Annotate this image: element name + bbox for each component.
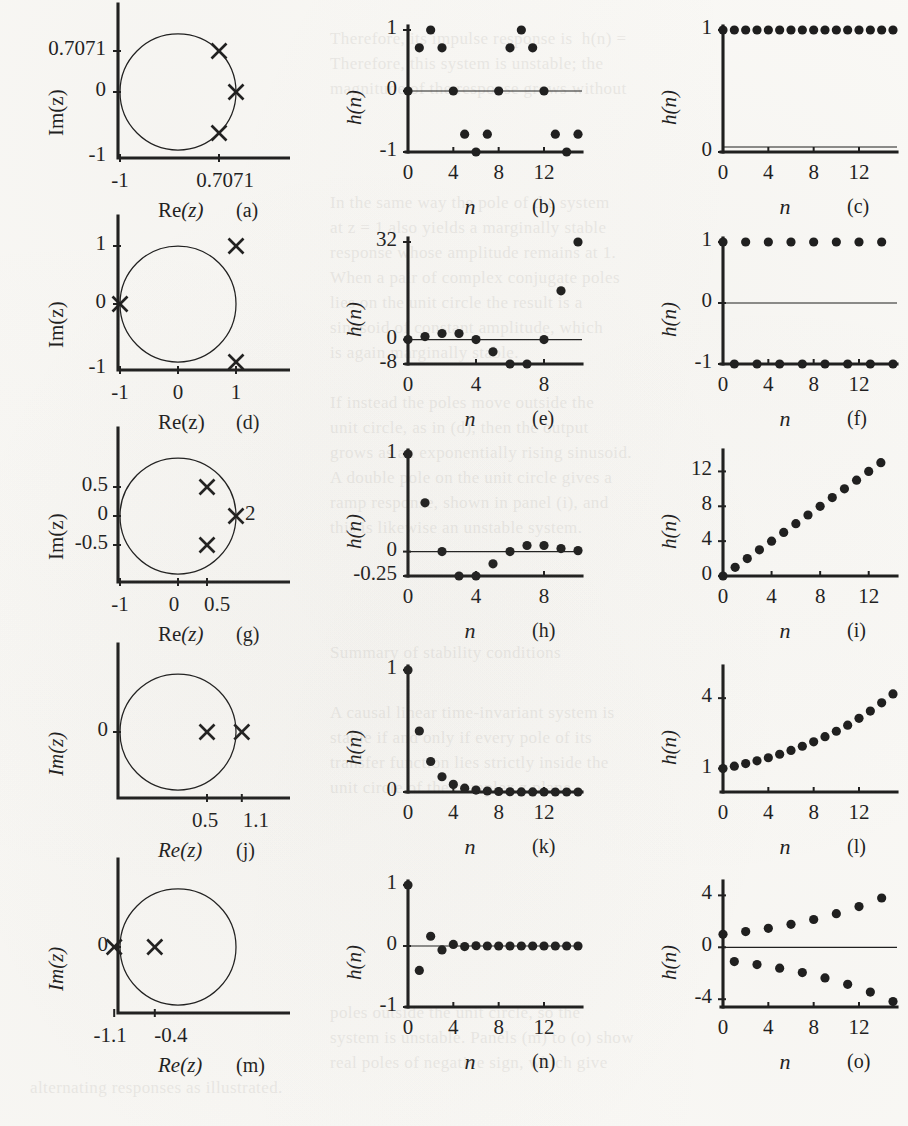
figure-panel-o: 40-404812h(n)n(o) bbox=[615, 855, 905, 1067]
x-axis-label: n bbox=[465, 1049, 476, 1075]
data-point bbox=[471, 785, 480, 794]
pole-marker bbox=[147, 940, 162, 955]
x-tick-label: 12 bbox=[534, 800, 555, 825]
figure-panel-g: 0.50-0.5-100.52Im(z)Re(z)(g) bbox=[0, 424, 290, 636]
x-tick-label: 8 bbox=[493, 1015, 504, 1040]
y-axis-label: h(n) bbox=[342, 945, 367, 980]
data-point bbox=[730, 762, 739, 771]
x-tick-label: 0.7071 bbox=[196, 168, 254, 193]
data-point bbox=[741, 25, 750, 34]
data-point bbox=[786, 25, 795, 34]
x-tick-label: 0 bbox=[403, 1015, 414, 1040]
data-point bbox=[888, 689, 897, 698]
data-point bbox=[505, 359, 514, 368]
data-point bbox=[866, 706, 875, 715]
figure-panel-n: 10-104812h(n)n(n) bbox=[300, 855, 590, 1067]
data-point bbox=[556, 544, 565, 553]
x-tick-label: 8 bbox=[808, 372, 819, 397]
x-tick-label: 4 bbox=[448, 800, 459, 825]
x-tick-label: 12 bbox=[849, 160, 870, 185]
data-point bbox=[505, 43, 514, 52]
y-axis-label: Im(z) bbox=[44, 947, 69, 991]
x-tick-label: -1 bbox=[111, 592, 129, 617]
data-point bbox=[828, 493, 837, 502]
figure-panel-f: 10-104812h(n)n(f) bbox=[615, 212, 905, 424]
y-tick-label: -8 bbox=[380, 349, 398, 374]
data-point bbox=[843, 25, 852, 34]
y-axis-label: Im(z) bbox=[44, 301, 69, 348]
y-tick-label: 32 bbox=[376, 227, 397, 252]
y-axis-label: h(n) bbox=[657, 730, 682, 765]
data-point bbox=[731, 563, 740, 572]
y-tick-label: 0.7071 bbox=[48, 36, 106, 61]
data-point bbox=[876, 458, 885, 467]
pole-marker bbox=[200, 538, 215, 553]
data-point bbox=[832, 909, 841, 918]
data-point bbox=[562, 147, 571, 156]
x-tick-label: 12 bbox=[534, 160, 555, 185]
pole-multiplicity-label: 2 bbox=[245, 501, 256, 526]
x-tick-label: 8 bbox=[539, 584, 550, 609]
data-point bbox=[775, 750, 784, 759]
x-tick-label: 0 bbox=[718, 372, 729, 397]
figure-panel-l: 4104812h(n)n(l) bbox=[615, 640, 905, 852]
y-tick-label: -1 bbox=[695, 349, 713, 374]
data-point bbox=[522, 541, 531, 550]
data-point bbox=[573, 546, 582, 555]
x-tick-label: 12 bbox=[849, 1015, 870, 1040]
x-tick-label: 0.5 bbox=[204, 592, 230, 617]
data-point bbox=[854, 237, 863, 246]
data-point bbox=[764, 237, 773, 246]
y-tick-label: 0 bbox=[387, 931, 398, 956]
y-tick-label: 0 bbox=[387, 76, 398, 101]
data-point bbox=[494, 787, 503, 796]
data-point bbox=[743, 554, 752, 563]
x-tick-label: 0 bbox=[718, 800, 729, 825]
x-tick-label: 4 bbox=[471, 584, 482, 609]
panel-tag-n: (n) bbox=[532, 1050, 555, 1073]
x-tick-label: 8 bbox=[539, 372, 550, 397]
y-tick-label: -1 bbox=[89, 354, 107, 379]
data-point bbox=[816, 502, 825, 511]
data-point bbox=[403, 449, 412, 458]
x-tick-label: 1.1 bbox=[243, 808, 269, 833]
data-point bbox=[730, 25, 739, 34]
figure-panel-k: 1004812h(n)n(k) bbox=[300, 640, 590, 852]
y-tick-label: 1 bbox=[387, 870, 398, 895]
data-point bbox=[843, 721, 852, 730]
data-point bbox=[798, 359, 807, 368]
y-tick-label: 1 bbox=[387, 15, 398, 40]
data-point bbox=[888, 25, 897, 34]
x-tick-label: 8 bbox=[493, 160, 504, 185]
data-point bbox=[528, 941, 537, 950]
data-point bbox=[494, 86, 503, 95]
data-point bbox=[460, 942, 469, 951]
y-tick-label: -1 bbox=[380, 137, 398, 162]
y-tick-label: 0 bbox=[387, 777, 398, 802]
data-point bbox=[471, 335, 480, 344]
x-tick-label: 0 bbox=[718, 584, 729, 609]
y-tick-label: 12 bbox=[691, 456, 712, 481]
data-point bbox=[832, 237, 841, 246]
x-tick-label: 12 bbox=[849, 372, 870, 397]
data-point bbox=[426, 757, 435, 766]
data-point bbox=[483, 130, 492, 139]
y-axis-label: h(n) bbox=[342, 730, 367, 765]
y-axis-label: Im(z) bbox=[44, 513, 69, 560]
x-axis-label: n bbox=[780, 1049, 791, 1075]
data-point bbox=[437, 547, 446, 556]
pole-marker bbox=[200, 480, 215, 495]
data-point bbox=[488, 347, 497, 356]
x-tick-label: 12 bbox=[849, 800, 870, 825]
y-tick-label: 0 bbox=[702, 288, 713, 313]
data-point bbox=[832, 25, 841, 34]
figure-panel-c: 1004812h(n)n(c) bbox=[615, 0, 905, 212]
y-tick-label: 4 bbox=[702, 683, 713, 708]
panel-tag-o: (o) bbox=[847, 1050, 870, 1073]
data-point bbox=[551, 130, 560, 139]
y-tick-label: 1 bbox=[387, 655, 398, 680]
x-tick-label: -0.4 bbox=[154, 1023, 187, 1048]
data-point bbox=[437, 772, 446, 781]
x-tick-label: 0 bbox=[403, 584, 414, 609]
data-point bbox=[539, 86, 548, 95]
